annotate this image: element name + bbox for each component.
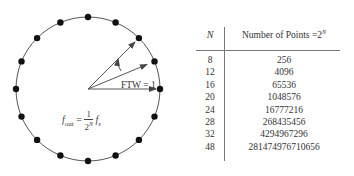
cell-n: 28	[196, 117, 224, 127]
phase-point	[151, 58, 157, 64]
table-header-divider	[196, 50, 340, 51]
phase-point	[57, 152, 63, 158]
cell-points: 16777216	[225, 105, 343, 115]
table-row: 48281474976710656	[196, 142, 346, 154]
cell-points: 1048576	[225, 92, 343, 102]
cell-n: 20	[196, 92, 224, 102]
phase-point	[112, 152, 118, 158]
table-row: 28268435456	[196, 117, 346, 129]
phase-point	[136, 137, 142, 143]
cell-n: 48	[196, 142, 224, 152]
table-row: 124096	[196, 67, 346, 79]
phase-point	[151, 113, 157, 119]
formula-denominator: 2N	[84, 120, 93, 132]
cell-points: 268435456	[225, 117, 343, 127]
table-row: 2416777216	[196, 105, 346, 117]
cell-points: 281474976710656	[225, 142, 343, 152]
phase-point	[85, 14, 91, 20]
formula-denominator-exp: N	[89, 121, 93, 127]
output-frequency-formula: fout = 1 2N fs	[62, 110, 101, 132]
cell-points: 4096	[225, 67, 343, 77]
phase-point	[85, 158, 91, 164]
table-row: 201048576	[196, 92, 346, 104]
formula-numerator: 1	[84, 110, 93, 120]
formula-rhs-sub: s	[98, 120, 101, 128]
formula-lhs-sub: out	[65, 120, 74, 128]
rotation-arc	[118, 59, 121, 71]
table-row: 8256	[196, 55, 346, 67]
cell-points: 256	[225, 55, 343, 65]
table-row: 324294967296	[196, 129, 346, 141]
cell-points: 4294967296	[225, 129, 343, 139]
phase-point	[57, 19, 63, 25]
cell-n: 24	[196, 105, 224, 115]
phase-point	[34, 137, 40, 143]
header-n: N	[196, 29, 224, 40]
header-points: Number of Points =2N	[225, 29, 343, 40]
ftw-label: FTW = 1	[121, 80, 156, 90]
table-row: 1665536	[196, 80, 346, 92]
phase-point	[157, 86, 163, 92]
phase-point	[13, 86, 19, 92]
header-points-exp: N	[322, 29, 326, 35]
formula-fraction: 1 2N	[84, 110, 93, 132]
phase-point	[34, 35, 40, 41]
formula-equals: =	[76, 114, 82, 125]
cell-n: 8	[196, 55, 224, 65]
cell-n: 16	[196, 80, 224, 90]
cell-n: 12	[196, 67, 224, 77]
phase-point	[112, 19, 118, 25]
header-points-label: Number of Points =2	[242, 30, 322, 40]
phase-point	[18, 58, 24, 64]
phase-point	[136, 35, 142, 41]
phase-point	[18, 113, 24, 119]
cell-points: 65536	[225, 80, 343, 90]
cell-n: 32	[196, 129, 224, 139]
